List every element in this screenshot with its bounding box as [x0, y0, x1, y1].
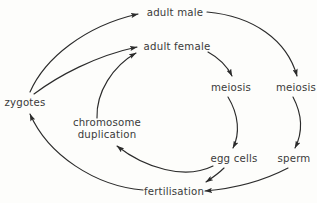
- node-label-sperm: sperm: [278, 153, 311, 165]
- edge-zygotes-to-adult-female: [34, 47, 137, 94]
- edge-adult-male-to-meiosis-male: [207, 12, 297, 76]
- node-label-adult_male: adult male: [147, 7, 204, 19]
- node-label-fertilisation: fertilisation: [144, 186, 204, 198]
- edge-meiosis-female-to-egg-cells: [228, 97, 237, 148]
- diagram-canvas: [0, 0, 317, 203]
- node-label-meiosis_m: meiosis: [276, 82, 316, 94]
- edge-meiosis-male-to-sperm: [293, 97, 300, 148]
- node-label-zygotes: zygotes: [4, 97, 45, 109]
- edge-layer: [30, 12, 300, 191]
- edge-sperm-to-fertilisation: [205, 168, 288, 191]
- edge-egg-cells-to-fertilisation: [206, 168, 224, 182]
- edge-zygotes-to-adult-male: [30, 14, 138, 92]
- edge-egg-cells-to-chromosome: [117, 146, 213, 172]
- node-label-chromosome: chromosome duplication: [73, 117, 141, 140]
- node-label-adult_female: adult female: [144, 41, 211, 53]
- edge-chromosome-to-adult-female: [97, 53, 136, 118]
- edge-adult-female-to-meiosis-female: [208, 52, 232, 76]
- node-label-meiosis_f: meiosis: [211, 82, 251, 94]
- life-cycle-diagram: adult maleadult femalemeiosismeiosiszygo…: [0, 0, 317, 203]
- node-label-egg_cells: egg cells: [210, 153, 257, 165]
